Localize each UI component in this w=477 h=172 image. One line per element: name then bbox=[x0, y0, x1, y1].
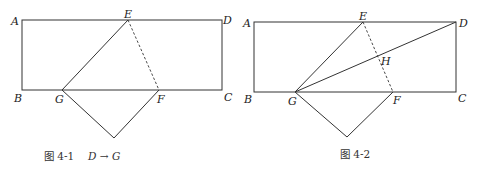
caption-4-2: 图 4-2 bbox=[340, 148, 370, 160]
segment-gd bbox=[295, 22, 456, 92]
label-d: D bbox=[222, 14, 232, 27]
label-b: B bbox=[13, 92, 22, 105]
folded-flap bbox=[62, 90, 159, 138]
label-c-2: C bbox=[458, 92, 467, 105]
figure-4-1: A B C D E F G 图 4-1 D → G bbox=[10, 8, 233, 162]
label-a-2: A bbox=[242, 17, 251, 30]
folded-flap-2 bbox=[295, 92, 393, 137]
crease-ef bbox=[128, 20, 159, 90]
label-g-2: G bbox=[288, 95, 297, 108]
label-e-2: E bbox=[358, 10, 367, 23]
label-e: E bbox=[123, 8, 132, 21]
label-d-2: D bbox=[458, 17, 468, 30]
figure-4-2: A B C D E F G H 图 4-2 bbox=[242, 10, 468, 160]
rectangle-abcd bbox=[22, 20, 222, 90]
rectangle-abcd-2 bbox=[254, 22, 456, 92]
geometry-figures: A B C D E F G 图 4-1 D → G A B C D E F G … bbox=[0, 0, 477, 172]
label-g: G bbox=[55, 93, 64, 106]
caption-4-1-prefix: 图 4-1 bbox=[44, 150, 74, 162]
segment-ge bbox=[62, 20, 128, 90]
label-a: A bbox=[10, 15, 19, 28]
label-f-2: F bbox=[392, 94, 401, 107]
caption-4-1-math: D → G bbox=[87, 150, 120, 162]
segment-ge-2 bbox=[295, 22, 363, 92]
label-b-2: B bbox=[243, 93, 252, 106]
label-h: H bbox=[380, 55, 391, 68]
label-f: F bbox=[156, 93, 165, 106]
label-c: C bbox=[224, 91, 233, 104]
